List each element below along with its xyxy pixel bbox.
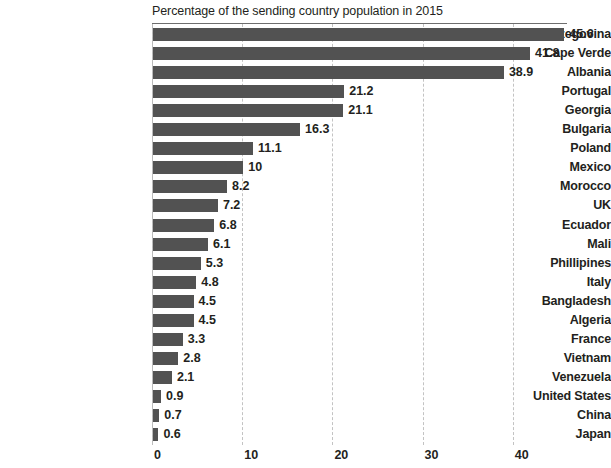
bar-value-label: 4.5 <box>199 313 216 328</box>
bar-value-label: 10 <box>248 160 262 175</box>
bar[interactable] <box>153 257 201 270</box>
bar[interactable] <box>153 428 158 441</box>
bar-value-label: 2.1 <box>177 370 194 385</box>
category-label: Venezuela <box>463 370 611 385</box>
bar-value-label: 0.9 <box>166 389 183 404</box>
bar[interactable] <box>153 219 214 232</box>
bar-value-label: 0.6 <box>163 427 180 442</box>
bar[interactable] <box>153 180 227 193</box>
x-tick-label-20: 20 <box>334 448 348 462</box>
bar-value-label: 4.8 <box>201 275 218 290</box>
bar-row: Albania38.9 <box>0 65 611 80</box>
bar-row: Bangladesh4.5 <box>0 294 611 309</box>
bar-value-label: 11.1 <box>258 141 282 156</box>
bar[interactable] <box>153 314 194 327</box>
category-label: Georgia <box>463 103 611 118</box>
x-tick-label-0: 0 <box>154 448 161 462</box>
x-tick-label-10: 10 <box>244 448 258 462</box>
bar-value-label: 7.2 <box>223 198 240 213</box>
category-label: Poland <box>463 141 611 156</box>
bar-value-label: 16.3 <box>305 122 329 137</box>
x-tick-label-30: 30 <box>425 448 439 462</box>
bar[interactable] <box>153 161 243 174</box>
bar-row: France3.3 <box>0 332 611 347</box>
bar-value-label: 41.8 <box>535 46 559 61</box>
bar-row: China0.7 <box>0 408 611 423</box>
bar-value-label: 3.3 <box>188 332 205 347</box>
bar[interactable] <box>153 47 530 60</box>
bar-row: Poland11.1 <box>0 141 611 156</box>
bar-row: Bosnia and Herzegovina45.6 <box>0 27 611 42</box>
bar-value-label: 38.9 <box>509 65 533 80</box>
bar-value-label: 21.2 <box>349 84 373 99</box>
bar[interactable] <box>153 28 564 41</box>
bar[interactable] <box>153 276 196 289</box>
bar-row: Italy4.8 <box>0 275 611 290</box>
bar[interactable] <box>153 104 343 117</box>
category-label: Mexico <box>463 160 611 175</box>
bar-row: Georgia21.1 <box>0 103 611 118</box>
bar-value-label: 4.5 <box>199 294 216 309</box>
bar[interactable] <box>153 333 183 346</box>
bar-value-label: 5.3 <box>206 256 223 271</box>
category-label: United States <box>463 389 611 404</box>
bar-row: Japan0.6 <box>0 427 611 442</box>
bar-row: Ecuador6.8 <box>0 218 611 233</box>
bar-row: Cape Verde41.8 <box>0 46 611 61</box>
category-label: Mali <box>463 237 611 252</box>
bar[interactable] <box>153 123 300 136</box>
bar-value-label: 8.2 <box>232 179 249 194</box>
bar-row: Algeria4.5 <box>0 313 611 328</box>
category-label: Vietnam <box>463 351 611 366</box>
bar-row: Morocco8.2 <box>0 179 611 194</box>
category-label: Japan <box>463 427 611 442</box>
bar-value-label: 0.7 <box>164 408 181 423</box>
category-label: Algeria <box>463 313 611 328</box>
bar-row: Portugal21.2 <box>0 84 611 99</box>
category-label: France <box>463 332 611 347</box>
category-label: UK <box>463 198 611 213</box>
bar-value-label: 2.8 <box>183 351 200 366</box>
bar-row: UK7.2 <box>0 198 611 213</box>
bar-chart-plot-area: 010203040 Bosnia and Herzegovina45.6Cape… <box>0 0 611 468</box>
bar[interactable] <box>153 142 253 155</box>
bar[interactable] <box>153 66 504 79</box>
category-label: China <box>463 408 611 423</box>
bar-row: Phillipines5.3 <box>0 256 611 271</box>
bar[interactable] <box>153 238 208 251</box>
category-label: Bulgaria <box>463 122 611 137</box>
category-label: Portugal <box>463 84 611 99</box>
bar[interactable] <box>153 352 178 365</box>
bar[interactable] <box>153 409 159 422</box>
bar[interactable] <box>153 199 218 212</box>
category-label: Phillipines <box>463 256 611 271</box>
bar-row: Venezuela2.1 <box>0 370 611 385</box>
bar-value-label: 6.8 <box>219 218 236 233</box>
bar-value-label: 6.1 <box>213 237 230 252</box>
plot-top-rule <box>152 23 567 24</box>
bar-row: Bulgaria16.3 <box>0 122 611 137</box>
bar-row: Mexico10 <box>0 160 611 175</box>
category-label: Morocco <box>463 179 611 194</box>
bar-row: United States0.9 <box>0 389 611 404</box>
bar[interactable] <box>153 295 194 308</box>
bar-value-label: 21.1 <box>348 103 372 118</box>
category-label: Bangladesh <box>463 294 611 309</box>
bar[interactable] <box>153 390 161 403</box>
x-tick-label-40: 40 <box>515 448 529 462</box>
bar-row: Vietnam2.8 <box>0 351 611 366</box>
bar[interactable] <box>153 371 172 384</box>
bar[interactable] <box>153 85 344 98</box>
bar-value-label: 45.6 <box>569 27 593 42</box>
category-label: Ecuador <box>463 218 611 233</box>
bar-row: Mali6.1 <box>0 237 611 252</box>
category-label: Italy <box>463 275 611 290</box>
